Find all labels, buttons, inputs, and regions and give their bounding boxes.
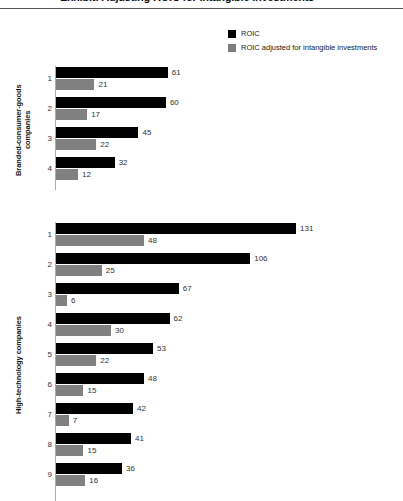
bar-roic [56, 403, 133, 414]
bar-row-roic-adjusted: 6 [56, 295, 75, 306]
bar-group-category-label: 3 [42, 134, 52, 143]
bar-row-roic: 62 [56, 313, 182, 324]
bar-value-label-roic-adjusted: 6 [71, 296, 75, 305]
bar-roic-adjusted [56, 295, 67, 306]
bar-roic-adjusted [56, 139, 96, 150]
bar-value-label-roic-adjusted: 21 [98, 80, 107, 89]
chart-legend: ROIC ROIC adjusted for intangible invest… [228, 28, 377, 56]
bar-roic-adjusted [56, 235, 144, 246]
bar-value-label-roic-adjusted: 12 [82, 170, 91, 179]
bar-value-label-roic: 48 [148, 374, 157, 383]
bar-group-category-label: 4 [42, 164, 52, 173]
bar-value-label-roic-adjusted: 15 [87, 386, 96, 395]
bar-row-roic-adjusted: 21 [56, 79, 107, 90]
bar-roic-adjusted [56, 79, 94, 90]
bar-group-category-label: 9 [42, 470, 52, 479]
bar-row-roic: 61 [56, 67, 181, 78]
bar-roic-adjusted [56, 109, 87, 120]
bar-value-label-roic: 131 [300, 224, 313, 233]
bar-roic [56, 373, 144, 384]
bar-group-category-label: 4 [42, 320, 52, 329]
bar-group-category-label: 5 [42, 350, 52, 359]
bar-roic [56, 313, 170, 324]
bar-value-label-roic: 45 [142, 128, 151, 137]
bar-row-roic-adjusted: 15 [56, 385, 96, 396]
bar-roic [56, 127, 138, 138]
bar-roic-adjusted [56, 385, 83, 396]
bar-value-label-roic-adjusted: 48 [148, 236, 157, 245]
bar-roic [56, 157, 115, 168]
bar-row-roic: 60 [56, 97, 179, 108]
bar-value-label-roic-adjusted: 22 [100, 140, 109, 149]
bar-roic [56, 283, 179, 294]
bar-row-roic-adjusted: 7 [56, 415, 77, 426]
bar-row-roic-adjusted: 25 [56, 265, 115, 276]
bar-group-category-label: 8 [42, 440, 52, 449]
bar-row-roic: 106 [56, 253, 268, 264]
bar-value-label-roic: 41 [135, 434, 144, 443]
legend-label-roic-adjusted: ROIC adjusted for intangible investments [241, 43, 377, 52]
bar-row-roic: 32 [56, 157, 128, 168]
bar-row-roic: 67 [56, 283, 192, 294]
legend-swatch-roic-adjusted [228, 44, 236, 52]
bar-row-roic: 45 [56, 127, 151, 138]
bar-roic [56, 463, 122, 474]
bar-value-label-roic-adjusted: 7 [73, 416, 77, 425]
bar-value-label-roic-adjusted: 17 [91, 110, 100, 119]
legend-swatch-roic [228, 30, 236, 38]
bar-roic-adjusted [56, 475, 85, 486]
bar-row-roic-adjusted: 16 [56, 475, 98, 486]
bar-roic [56, 67, 168, 78]
bar-row-roic: 48 [56, 373, 157, 384]
bar-group-category-label: 3 [42, 290, 52, 299]
bar-value-label-roic-adjusted: 22 [100, 356, 109, 365]
bar-value-label-roic-adjusted: 15 [87, 446, 96, 455]
bar-value-label-roic: 106 [254, 254, 267, 263]
bar-row-roic: 41 [56, 433, 144, 444]
bar-roic [56, 97, 166, 108]
bar-value-label-roic: 36 [126, 464, 135, 473]
bar-group-category-label: 6 [42, 380, 52, 389]
bar-roic [56, 343, 153, 354]
bar-group-category-label: 7 [42, 410, 52, 419]
legend-item-roic-adjusted: ROIC adjusted for intangible investments [228, 42, 377, 53]
bar-roic-adjusted [56, 355, 96, 366]
bar-value-label-roic: 53 [157, 344, 166, 353]
legend-label-roic: ROIC [241, 29, 260, 38]
bar-row-roic-adjusted: 17 [56, 109, 100, 120]
bar-roic-adjusted [56, 445, 83, 456]
bar-row-roic: 36 [56, 463, 135, 474]
bar-value-label-roic: 67 [183, 284, 192, 293]
bar-value-label-roic-adjusted: 25 [106, 266, 115, 275]
bar-row-roic-adjusted: 22 [56, 139, 109, 150]
bar-row-roic: 53 [56, 343, 166, 354]
bar-group-category-label: 1 [42, 230, 52, 239]
bar-row-roic-adjusted: 48 [56, 235, 157, 246]
bar-value-label-roic-adjusted: 30 [115, 326, 124, 335]
panel-axis-label-high-technology: High-technology companies [14, 300, 23, 430]
bar-roic-adjusted [56, 325, 111, 336]
bar-value-label-roic: 61 [172, 68, 181, 77]
bar-roic-adjusted [56, 265, 102, 276]
legend-item-roic: ROIC [228, 28, 377, 39]
bar-roic [56, 223, 296, 234]
bar-row-roic-adjusted: 12 [56, 169, 91, 180]
bar-group-category-label: 2 [42, 104, 52, 113]
title-divider-rule [0, 8, 403, 9]
bar-row-roic-adjusted: 15 [56, 445, 96, 456]
chart-title: Exhibit: Adjusting ROIC for intangible i… [60, 0, 314, 3]
bar-group-category-label: 1 [42, 74, 52, 83]
bar-row-roic-adjusted: 30 [56, 325, 124, 336]
bar-row-roic: 42 [56, 403, 146, 414]
bar-roic [56, 433, 131, 444]
bar-row-roic: 131 [56, 223, 313, 234]
bar-row-roic-adjusted: 22 [56, 355, 109, 366]
bar-value-label-roic: 60 [170, 98, 179, 107]
bar-value-label-roic: 62 [174, 314, 183, 323]
bar-roic-adjusted [56, 415, 69, 426]
bar-roic-adjusted [56, 169, 78, 180]
bar-value-label-roic: 42 [137, 404, 146, 413]
bar-group-category-label: 2 [42, 260, 52, 269]
bar-value-label-roic: 32 [119, 158, 128, 167]
bar-value-label-roic-adjusted: 16 [89, 476, 98, 485]
